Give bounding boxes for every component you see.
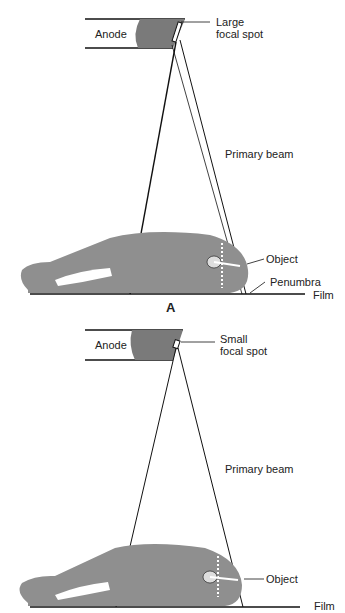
primary-beam-label-a: Primary beam — [225, 148, 293, 160]
focal-spot-label-a-line2: focal spot — [216, 28, 263, 40]
anode-label-a: Anode — [95, 28, 127, 40]
penumbra-label-a: Penumbra — [270, 276, 321, 288]
primary-beam-label-b: Primary beam — [225, 463, 293, 475]
focal-spot-label-b-line1: Small — [220, 333, 248, 345]
film-label-b: Film — [314, 600, 335, 612]
panel-label-a: A — [166, 302, 175, 314]
object-label-a: Object — [266, 253, 298, 265]
anode-label-b: Anode — [95, 339, 127, 351]
object-label-b: Object — [266, 573, 298, 585]
focal-spot-label-a-line1: Large — [216, 16, 244, 28]
focal-spot-label-b-line2: focal spot — [220, 345, 267, 357]
film-label-a: Film — [313, 289, 334, 301]
